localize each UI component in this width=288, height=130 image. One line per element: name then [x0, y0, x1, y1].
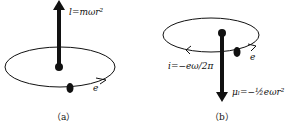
arrowhead-down-icon	[216, 92, 228, 102]
diagram-canvas	[0, 0, 288, 130]
caption-b: （b）	[210, 110, 234, 123]
electron-label-b: e	[250, 52, 255, 62]
orbit-b	[163, 18, 259, 52]
nucleus-b	[218, 29, 226, 37]
angular-momentum-label: l=mωr²	[69, 7, 103, 17]
electron-a	[67, 83, 74, 93]
nucleus-a	[55, 63, 63, 71]
arrowhead-up-icon	[53, 0, 65, 10]
electron-label-a: e	[93, 83, 98, 93]
magnetic-moment-label: μₗ=−½eωr²	[232, 87, 284, 97]
current-label: i=−eω/2π	[168, 61, 213, 71]
caption-a: （a）	[52, 110, 75, 123]
electron-b	[234, 47, 241, 57]
